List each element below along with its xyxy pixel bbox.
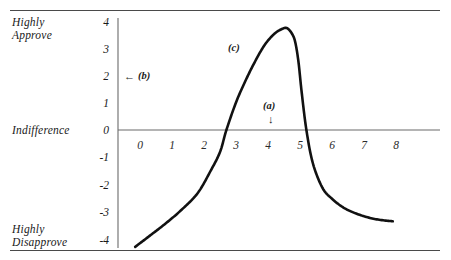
x-tick-5: 5: [291, 139, 309, 151]
annotation-b-left-arrow-icon: ←: [124, 71, 135, 82]
y-tick-neg4: -4: [87, 234, 109, 246]
x-tick-7: 7: [355, 139, 373, 151]
x-tick-3: 3: [227, 139, 245, 151]
y-tick-neg2: -2: [87, 179, 109, 191]
y-category-highly-disapprove-line1: Highly: [12, 223, 67, 236]
y-tick-3: 3: [87, 43, 109, 55]
y-tick-neg3: -3: [87, 206, 109, 218]
x-tick-2: 2: [195, 139, 213, 151]
annotation-b-label: (b): [138, 70, 150, 81]
x-tick-1: 1: [163, 139, 181, 151]
y-tick-4: 4: [87, 16, 109, 28]
y-category-indifference-line1: Indifference: [12, 124, 70, 137]
x-tick-6: 6: [323, 139, 341, 151]
figure-container: Highly Approve Indifference Highly Disap…: [0, 0, 451, 260]
annotation-c-label: (c): [228, 42, 240, 53]
y-tick-0: 0: [87, 124, 109, 136]
y-tick-neg1: -1: [87, 151, 109, 163]
y-category-highly-approve-line1: Highly: [12, 16, 52, 29]
y-tick-1: 1: [87, 97, 109, 109]
y-category-highly-approve: Highly Approve: [12, 16, 52, 42]
y-category-indifference: Indifference: [12, 124, 70, 137]
annotation-a-down-arrow-icon: ↓: [268, 114, 274, 125]
x-tick-8: 8: [387, 139, 405, 151]
y-category-highly-approve-line2: Approve: [12, 29, 52, 42]
x-tick-0: 0: [131, 139, 149, 151]
x-tick-4: 4: [259, 139, 277, 151]
y-category-highly-disapprove: Highly Disapprove: [12, 223, 67, 249]
y-category-highly-disapprove-line2: Disapprove: [12, 236, 67, 249]
annotation-a-label: (a): [263, 100, 275, 111]
y-tick-2: 2: [87, 70, 109, 82]
attitude-curve: [135, 28, 393, 247]
